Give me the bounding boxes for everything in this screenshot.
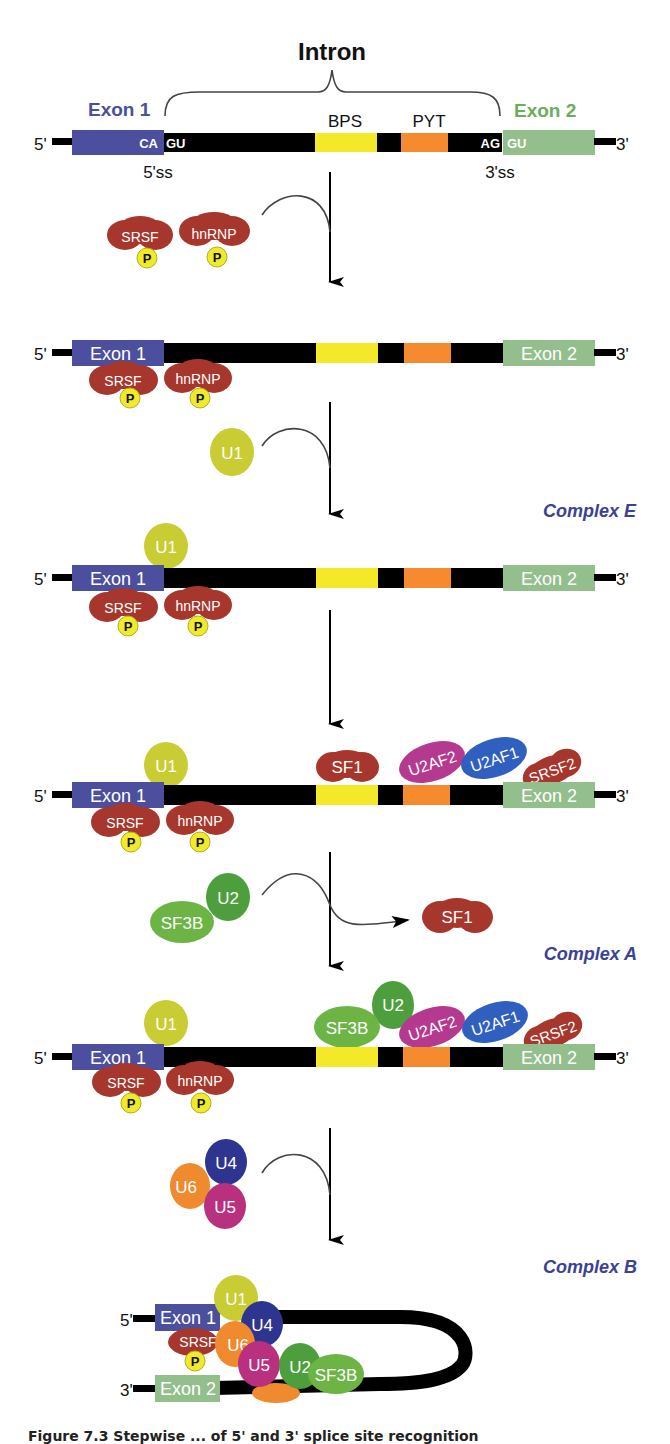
srsf-factor: SRSF P <box>92 1063 161 1113</box>
svg-text:P: P <box>191 1354 200 1369</box>
svg-text:Exon 2: Exon 2 <box>521 786 577 806</box>
svg-text:Exon 2: Exon 2 <box>521 569 577 589</box>
svg-text:5': 5' <box>34 787 47 806</box>
svg-text:hnRNP: hnRNP <box>191 226 236 242</box>
u1-snrnp: U1 <box>210 428 254 476</box>
svg-text:P: P <box>143 251 152 266</box>
svg-text:P: P <box>194 619 203 634</box>
svg-text:SF3B: SF3B <box>326 1019 369 1038</box>
svg-text:U1: U1 <box>155 757 177 776</box>
svg-text:3': 3' <box>616 787 629 806</box>
svg-text:Exon 1: Exon 1 <box>90 569 146 589</box>
svg-text:U5: U5 <box>214 1198 236 1217</box>
svg-text:Exon 2: Exon 2 <box>521 344 577 364</box>
pyt-block <box>401 133 448 152</box>
svg-text:U2: U2 <box>289 1358 311 1377</box>
hnrnp-factor: hnRNP P <box>166 1061 234 1113</box>
sf1-factor: SF1 <box>316 750 379 782</box>
stage-premrna: Intron Exon 1 Exon 2 BPS PYT 5' 3' CA GU… <box>34 38 629 182</box>
svg-text:P: P <box>213 250 222 265</box>
hnrnp-factor: hnRNP P <box>164 359 232 408</box>
svg-text:P: P <box>124 619 133 634</box>
ca-dinucleotide: CA <box>139 136 158 151</box>
svg-text:5': 5' <box>34 1049 47 1068</box>
svg-text:5': 5' <box>120 1311 133 1330</box>
svg-text:SRSF: SRSF <box>106 815 143 831</box>
srsf-factor: SRSF P <box>89 588 158 636</box>
stage-sf1-u2af-bound: U1 SF1 U2AF2 U2AF1 SRSF2 5' Exon 1 Exon … <box>34 729 629 852</box>
five-prime-label: 5' <box>34 135 47 154</box>
svg-text:3': 3' <box>616 345 629 364</box>
svg-text:U1: U1 <box>155 538 177 557</box>
gu-5ss-dinucleotide: GU <box>166 136 186 151</box>
u2af1-factor: U2AF1 <box>456 729 532 786</box>
svg-text:SF3B: SF3B <box>161 914 204 933</box>
svg-text:Exon 2: Exon 2 <box>160 1379 216 1399</box>
step5-arrow: U6 U4 U5 Complex B <box>170 1128 637 1277</box>
step2-arrow: U1 Complex E <box>210 402 637 521</box>
svg-text:Exon 1: Exon 1 <box>90 786 146 806</box>
hnrnp-factor: hnRNP P <box>166 801 234 852</box>
svg-text:3': 3' <box>616 1049 629 1068</box>
u1-snrnp: U1 <box>144 523 188 569</box>
exon1-heading: Exon 1 <box>88 99 151 120</box>
svg-text:3': 3' <box>120 1381 133 1400</box>
svg-text:SF1: SF1 <box>441 908 472 927</box>
svg-text:P: P <box>196 835 205 850</box>
complex-a-label: Complex A <box>544 944 637 964</box>
stage-complex-e: U1 5' Exon 1 Exon 2 3' SRSF P hnRNP P <box>34 523 629 636</box>
u6-snrnp: U6 <box>170 1163 210 1209</box>
hnrnp-factor: hnRNP P <box>179 212 250 267</box>
sf3b-factor: SF3B <box>150 901 214 943</box>
sf3b-factor: SF3B <box>308 1354 364 1394</box>
u2af1-factor: U2AF1 <box>457 993 533 1050</box>
svg-text:U1: U1 <box>225 1290 247 1309</box>
svg-text:Exon 2: Exon 2 <box>521 1048 577 1068</box>
figure-caption: Figure 7.3 Stepwise ... of 5' and 3' spl… <box>28 1428 479 1444</box>
svg-text:U1: U1 <box>155 1015 177 1034</box>
svg-text:U5: U5 <box>248 1356 270 1375</box>
intron-brace <box>165 70 500 116</box>
svg-text:SRSF: SRSF <box>104 600 141 616</box>
step1-arrow: SRSF P hnRNP P <box>107 172 330 282</box>
svg-text:U4: U4 <box>251 1316 273 1335</box>
svg-text:P: P <box>126 391 135 406</box>
three-ss-label: 3'ss <box>485 163 515 182</box>
u2-snrnp: U2 <box>206 873 250 921</box>
svg-text:5': 5' <box>34 345 47 364</box>
u4-snrnp: U4 <box>205 1139 247 1185</box>
stage-complex-a: U1 U2 SF3B U2AF2 U2AF1 SRSF2 5' Exon 1 <box>34 981 629 1113</box>
svg-text:SRSF: SRSF <box>104 373 141 389</box>
svg-text:P: P <box>196 391 205 406</box>
srsf-factor: SRSF P <box>89 361 158 408</box>
exon2-heading: Exon 2 <box>514 100 576 121</box>
svg-text:SF3B: SF3B <box>315 1366 358 1385</box>
svg-text:P: P <box>197 1096 206 1111</box>
srsf-factor: SRSF P <box>107 216 173 268</box>
svg-text:P: P <box>127 1096 136 1111</box>
pyt-label: PYT <box>412 112 445 131</box>
svg-text:SRSF: SRSF <box>179 1334 216 1350</box>
svg-text:hnRNP: hnRNP <box>177 813 222 829</box>
gu-exon2-dinucleotide: GU <box>507 136 527 151</box>
three-prime-label: 3' <box>616 135 629 154</box>
svg-text:hnRNP: hnRNP <box>175 371 220 387</box>
svg-text:U6: U6 <box>175 1178 197 1197</box>
svg-text:Exon 1: Exon 1 <box>160 1308 216 1328</box>
sf1-released: SF1 <box>422 898 493 933</box>
stage-complex-b: 5' Exon 1 3' Exon 2 SRSF P U1 U4 U6 U5 <box>120 1275 466 1403</box>
five-prime-tail <box>52 138 74 145</box>
intron-title: Intron <box>298 38 366 65</box>
stage-srsf-bound: 5' Exon 1 Exon 2 3' SRSF P hnRNP P <box>34 340 629 408</box>
srsf-factor: SRSF P <box>91 803 160 852</box>
svg-text:5': 5' <box>34 570 47 589</box>
bps-label: BPS <box>328 112 362 131</box>
srsf-factor: SRSF P <box>168 1328 218 1371</box>
svg-text:U2: U2 <box>217 889 239 908</box>
svg-text:hnRNP: hnRNP <box>177 1073 222 1089</box>
ag-dinucleotide: AG <box>481 136 501 151</box>
complex-b-label: Complex B <box>543 1257 637 1277</box>
svg-text:SF1: SF1 <box>331 758 362 777</box>
svg-text:U4: U4 <box>215 1154 237 1173</box>
